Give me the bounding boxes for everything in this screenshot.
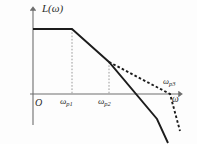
solid-asymptote-curve [33,29,168,143]
y-axis-label: L(ω) [42,3,63,14]
dashed-asymptote-curve [109,62,180,131]
tick-label-omega-p2-subscript: p2 [104,100,111,107]
x-axis-label: ω [172,95,179,105]
tick-label-omega-p2: ωp2 [98,97,111,108]
annotation-omega-p3-subscript: p3 [169,80,176,87]
annotation-omega-p3: ωp3 [163,77,176,88]
plot-canvas [0,0,197,144]
bode-plot-figure: L(ω) O ωp1 ωp2 ωp3 ω [0,0,197,144]
tick-label-omega-p1-subscript: p1 [66,100,73,107]
tick-label-omega-p1: ωp1 [60,97,73,108]
origin-label: O [35,98,42,108]
